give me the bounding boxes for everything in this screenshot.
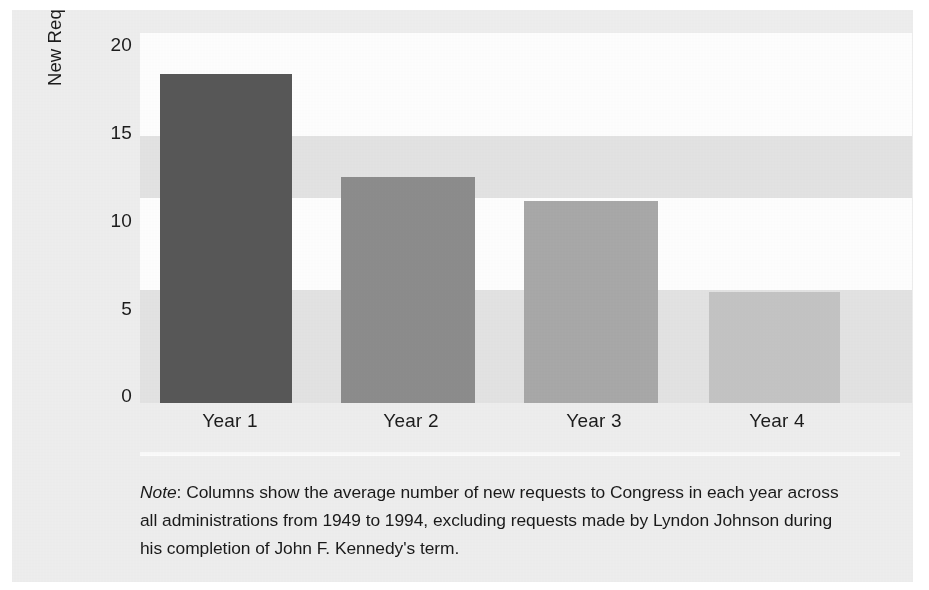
y-tick-label-10: 10 bbox=[86, 211, 132, 230]
note-divider bbox=[140, 452, 900, 455]
x-tick-label-year-3: Year 3 bbox=[524, 410, 664, 432]
y-axis-label: New Requests to Congress bbox=[44, 10, 66, 86]
plot-area bbox=[140, 33, 912, 403]
y-tick-label-5: 5 bbox=[86, 299, 132, 318]
figure-note: Note: Columns show the average number of… bbox=[140, 478, 840, 563]
bar-year-1[interactable] bbox=[160, 74, 292, 403]
note-lead: Note bbox=[140, 482, 177, 502]
x-tick-label-year-2: Year 2 bbox=[341, 410, 481, 432]
bar-year-4[interactable] bbox=[709, 292, 840, 403]
x-tick-label-year-1: Year 1 bbox=[160, 410, 300, 432]
y-tick-label-20: 20 bbox=[86, 35, 132, 54]
bar-year-2[interactable] bbox=[341, 177, 475, 403]
x-tick-label-year-4: Year 4 bbox=[707, 410, 847, 432]
note-text: Columns show the average number of new r… bbox=[140, 482, 839, 558]
bar-year-3[interactable] bbox=[524, 201, 658, 403]
y-tick-label-15: 15 bbox=[86, 123, 132, 142]
y-tick-label-0: 0 bbox=[86, 386, 132, 405]
figure-panel: New Requests to Congress 20 15 10 5 0 Ye… bbox=[12, 10, 913, 582]
